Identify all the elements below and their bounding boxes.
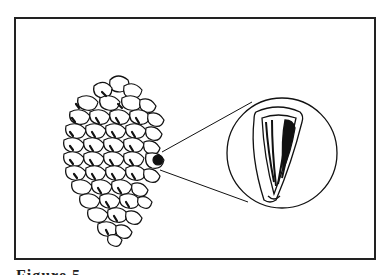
pinecone-illustration xyxy=(64,76,164,246)
figure-illustration xyxy=(0,0,390,275)
figure-caption: Figure 5 xyxy=(16,268,81,275)
